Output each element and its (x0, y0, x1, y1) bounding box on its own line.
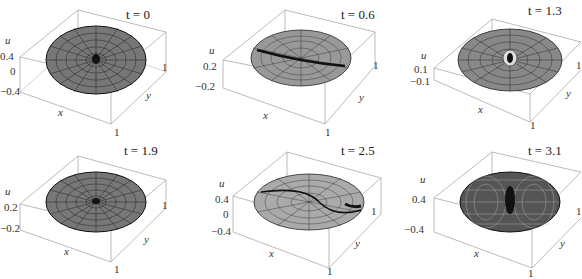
y-tick: 1 (162, 62, 168, 73)
x-tick: 1 (530, 120, 536, 131)
z-tick: 0.2 (203, 61, 217, 72)
z-tick: 0 (223, 209, 229, 220)
u-axis-label: u (5, 35, 11, 46)
z-tick: −0.2 (195, 81, 215, 92)
z-tick: −0.4 (0, 86, 20, 97)
plot-t2.5: t = 2.5 u 0.4 0 −0.4 x y 1 1 (195, 138, 390, 276)
surface-plot-t3.1 (386, 138, 581, 276)
y-axis-label: y (566, 88, 571, 99)
z-tick: 0.2 (4, 202, 18, 213)
plot-title: t = 2.5 (341, 144, 375, 157)
z-tick: 0.4 (0, 51, 14, 62)
x-axis-label: x (263, 110, 268, 121)
y-tick: 1 (371, 206, 377, 217)
z-tick: 0 (10, 66, 16, 77)
x-axis-label: x (64, 246, 69, 257)
y-tick: 1 (576, 206, 582, 217)
y-axis-label: y (355, 238, 360, 249)
x-axis-label: x (474, 248, 479, 259)
u-axis-label: u (219, 178, 225, 189)
x-tick: 1 (114, 264, 120, 275)
y-tick: 1 (373, 60, 379, 71)
x-tick: 1 (528, 268, 534, 279)
z-tick: 0.1 (414, 64, 428, 75)
y-tick: 1 (162, 200, 168, 211)
y-tick: 1 (576, 60, 582, 71)
z-tick: 0.4 (215, 194, 229, 205)
x-axis-label: x (58, 107, 63, 118)
plot-t3.1: t = 3.1 u 0.4 −0.4 x y 1 1 (386, 138, 581, 276)
u-axis-label: u (5, 186, 11, 197)
z-tick: −0.2 (0, 223, 20, 234)
plot-title: t = 3.1 (528, 144, 562, 157)
u-axis-label: u (420, 174, 426, 185)
y-axis-label: y (146, 90, 151, 101)
u-axis-label: u (209, 45, 215, 56)
plot-t0: t = 0 u 0.4 0 −0.4 x y 1 1 (0, 0, 195, 138)
z-tick: 0.4 (412, 194, 426, 205)
plot-title: t = 1.9 (124, 144, 158, 157)
u-axis-label: u (421, 50, 427, 61)
plot-t1.9: t = 1.9 u 0.2 −0.2 x y 1 1 (0, 138, 195, 276)
plot-title: t = 0.6 (341, 8, 375, 21)
z-tick: −0.4 (211, 226, 231, 237)
z-tick: −0.4 (404, 224, 424, 235)
y-axis-label: y (144, 234, 149, 245)
x-tick: 1 (325, 127, 331, 138)
y-axis-label: y (359, 92, 364, 103)
x-tick: 1 (327, 266, 333, 277)
plot-title: t = 0 (126, 8, 150, 21)
x-axis-label: x (269, 248, 274, 259)
plot-t1.3: t = 1.3 u 0.1 −0.1 x y 1 1 (386, 0, 581, 138)
plot-title: t = 1.3 (528, 4, 562, 17)
y-axis-label: y (560, 238, 565, 249)
x-tick: 1 (114, 127, 120, 138)
surface-plot-t2.5 (195, 138, 390, 276)
z-tick: −0.1 (410, 76, 430, 87)
x-axis-label: x (478, 104, 483, 115)
plot-t0.6: t = 0.6 u 0.2 −0.2 x y 1 1 (195, 0, 390, 138)
